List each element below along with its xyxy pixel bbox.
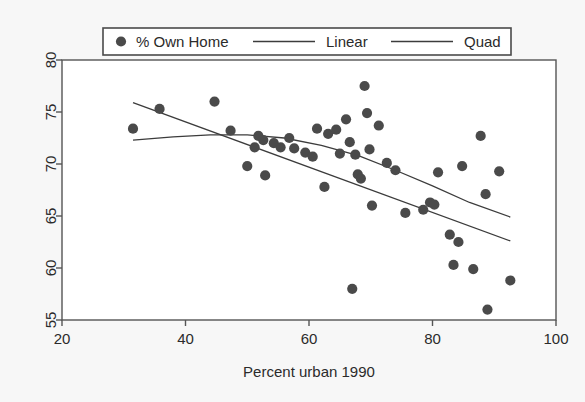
y-tick-label: 55 — [42, 312, 59, 329]
scatter-marker — [276, 142, 286, 152]
y-tick-label: 70 — [42, 156, 59, 173]
chart-legend: % Own HomeLinearQuad — [103, 28, 511, 55]
x-axis-title: Percent urban 1990 — [243, 363, 375, 380]
scatter-marker — [481, 189, 491, 199]
x-tick-label: 60 — [301, 330, 318, 347]
legend-marker-icon — [116, 36, 126, 46]
scatter-marker — [382, 158, 392, 168]
scatter-marker — [350, 150, 360, 160]
scatter-marker — [468, 264, 478, 274]
scatter-marker — [347, 284, 357, 294]
scatter-marker — [367, 201, 377, 211]
y-tick-label: 75 — [42, 104, 59, 121]
scatter-marker — [242, 161, 252, 171]
chart-figure: 556065707580 20406080100 Percent urban 1… — [0, 0, 585, 402]
y-tick-label: 80 — [42, 52, 59, 69]
scatter-marker — [356, 173, 366, 183]
scatter-marker — [374, 120, 384, 130]
scatter-marker — [494, 166, 504, 176]
scatter-marker — [308, 152, 318, 162]
scatter-marker — [482, 305, 492, 315]
scatter-marker — [362, 108, 372, 118]
x-tick-label: 40 — [177, 330, 194, 347]
legend-label-linear: Linear — [326, 33, 368, 50]
scatter-marker — [250, 142, 260, 152]
legend-label-own-home: % Own Home — [136, 33, 229, 50]
x-tick-label: 20 — [54, 330, 71, 347]
scatter-marker — [505, 275, 515, 285]
scatter-marker — [225, 126, 235, 136]
scatter-marker — [453, 237, 463, 247]
scatter-marker — [433, 167, 443, 177]
y-axis: 556065707580 — [42, 52, 63, 329]
scatter-marker — [457, 161, 467, 171]
scatter-marker — [312, 124, 322, 134]
y-tick-label: 65 — [42, 208, 59, 225]
scatter-marker — [209, 97, 219, 107]
scatter-marker — [359, 81, 369, 91]
x-axis: 20406080100 — [54, 320, 569, 347]
y-tick-label: 60 — [42, 260, 59, 277]
scatter-marker — [390, 165, 400, 175]
scatter-marker — [289, 143, 299, 153]
scatter-marker — [284, 133, 294, 143]
scatter-marker — [429, 199, 439, 209]
x-tick-label: 100 — [543, 330, 568, 347]
plot-area-background — [62, 60, 556, 320]
legend-label-quad: Quad — [464, 33, 501, 50]
scatter-chart: 556065707580 20406080100 Percent urban 1… — [0, 0, 585, 402]
scatter-marker — [445, 230, 455, 240]
scatter-marker — [319, 182, 329, 192]
scatter-marker — [400, 208, 410, 218]
scatter-marker — [341, 114, 351, 124]
scatter-marker — [448, 260, 458, 270]
scatter-marker — [154, 104, 164, 114]
scatter-marker — [345, 137, 355, 147]
scatter-marker — [335, 149, 345, 159]
scatter-marker — [476, 131, 486, 141]
scatter-marker — [331, 125, 341, 135]
scatter-marker — [128, 124, 138, 134]
scatter-marker — [258, 135, 268, 145]
scatter-marker — [364, 144, 374, 154]
scatter-marker — [260, 170, 270, 180]
x-tick-label: 80 — [424, 330, 441, 347]
